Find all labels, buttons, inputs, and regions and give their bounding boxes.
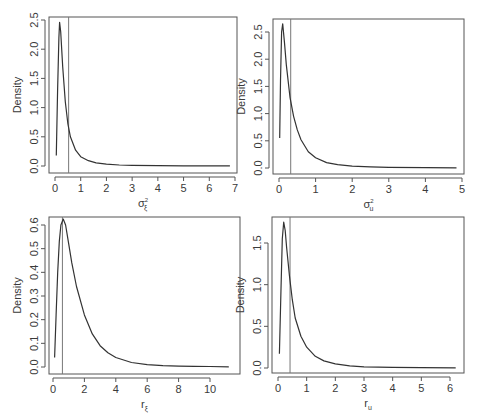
y-axis-label: Density [11, 76, 23, 113]
x-tick-label: 0 [52, 182, 58, 194]
x-tick-label: 1 [78, 182, 84, 194]
y-tick-label: 0.4 [28, 265, 40, 280]
plot-frame [49, 17, 237, 173]
plot-frame [49, 217, 240, 374]
x-tick-label: 7 [232, 182, 238, 194]
x-tick-label: 10 [204, 383, 216, 395]
y-axis: 0.00.51.01.52.02.5 [28, 12, 45, 173]
x-tick-label: 3 [386, 183, 392, 195]
y-axis: 0.00.51.01.5 [251, 235, 268, 375]
x-axis-label: rξ [141, 398, 148, 413]
y-tick-label: 1.5 [252, 79, 264, 94]
x-axis: 012345 [276, 178, 465, 195]
x-tick-label: 6 [144, 383, 150, 395]
y-tick-label: 0.5 [251, 319, 263, 334]
density-curve [280, 24, 457, 168]
y-tick-label: 0.5 [28, 241, 40, 256]
y-tick-label: 1.5 [28, 71, 40, 86]
y-tick-label: 2.5 [28, 12, 40, 27]
x-tick-label: 4 [113, 383, 119, 395]
x-axis: 0246810 [50, 378, 216, 395]
x-tick-label: 3 [361, 382, 367, 394]
y-axis: 0.00.10.20.30.40.50.6 [28, 217, 45, 374]
density-figure: 01234567σ2ξ0.00.51.01.52.02.5Density 012… [0, 0, 478, 420]
y-tick-label: 1.5 [251, 235, 263, 250]
x-tick-label: 0 [276, 183, 282, 195]
panel-r-xi: 0246810rξ0.00.10.20.30.40.50.6Density [11, 217, 240, 413]
y-tick-label: 0.5 [252, 133, 264, 148]
x-tick-label: 0 [50, 383, 56, 395]
y-tick-label: 2.0 [252, 52, 264, 67]
x-axis: 01234567 [52, 177, 238, 194]
x-axis-label: ru [364, 397, 372, 411]
y-tick-label: 1.0 [251, 277, 263, 292]
x-tick-label: 1 [313, 183, 319, 195]
y-tick-label: 0.1 [28, 336, 40, 351]
x-axis-label: σ2ξ [138, 197, 149, 212]
x-tick-label: 6 [206, 182, 212, 194]
x-tick-label: 4 [155, 182, 161, 194]
panel-r-u: 0123456ru0.00.51.01.5Density [234, 217, 464, 411]
x-axis-label: σ2u [363, 198, 374, 212]
x-tick-label: 2 [81, 383, 87, 395]
y-tick-label: 2.5 [252, 24, 264, 39]
y-tick-label: 0.2 [28, 312, 40, 327]
y-tick-label: 2.0 [28, 42, 40, 57]
x-tick-label: 5 [459, 183, 465, 195]
y-tick-label: 0.0 [252, 160, 264, 175]
y-axis-label: Density [234, 276, 246, 313]
x-tick-label: 6 [447, 382, 453, 394]
x-tick-label: 4 [390, 382, 396, 394]
x-axis: 0123456 [275, 377, 453, 394]
density-curve [279, 222, 455, 368]
x-tick-label: 4 [422, 183, 428, 195]
x-tick-label: 2 [103, 182, 109, 194]
y-tick-label: 0.0 [28, 158, 40, 173]
y-tick-label: 0.5 [28, 129, 40, 144]
y-tick-label: 0.3 [28, 288, 40, 303]
y-tick-label: 0.0 [28, 359, 40, 374]
x-tick-label: 1 [304, 382, 310, 394]
y-axis-label: Density [11, 277, 23, 314]
x-tick-label: 2 [349, 183, 355, 195]
x-tick-label: 8 [176, 383, 182, 395]
density-curve [56, 22, 230, 166]
y-axis-label: Density [235, 78, 247, 115]
plot-frame [272, 217, 464, 373]
x-tick-label: 3 [129, 182, 135, 194]
x-tick-label: 2 [332, 382, 338, 394]
panel-sigma-u-squared: 012345σ2u0.00.51.01.52.02.5Density [235, 19, 465, 212]
x-tick-label: 5 [418, 382, 424, 394]
y-tick-label: 0.0 [251, 360, 263, 375]
panel-sigma-xi-squared: 01234567σ2ξ0.00.51.01.52.02.5Density [11, 12, 238, 212]
y-tick-label: 1.0 [28, 100, 40, 115]
plot-frame [273, 19, 464, 174]
x-tick-label: 5 [181, 182, 187, 194]
y-tick-label: 0.6 [28, 217, 40, 232]
x-tick-label: 0 [275, 382, 281, 394]
y-tick-label: 1.0 [252, 106, 264, 121]
density-curve [55, 219, 229, 367]
y-axis: 0.00.51.01.52.02.5 [252, 24, 269, 175]
